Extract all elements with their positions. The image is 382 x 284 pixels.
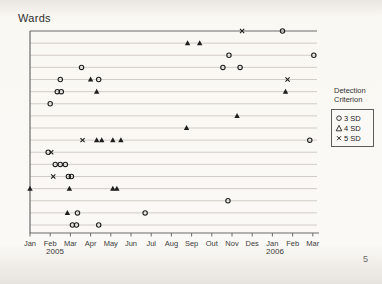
legend-title-line1: Detection: [334, 86, 366, 95]
triangle-marker-icon: [335, 124, 344, 132]
legend-entry-3sd: 3 SD: [335, 113, 373, 123]
slide: Wards JanFebMarAprMayJunJulAugSepOutNovD…: [0, 0, 382, 284]
legend-entry-5sd: 5 SD: [335, 133, 373, 143]
x-tick-label: Aug: [165, 239, 178, 248]
legend-entry-4sd: 4 SD: [335, 123, 373, 133]
scatter-plot: JanFebMarAprMayJunJulAugSepOutNovDesJanF…: [0, 0, 382, 284]
x-tick-label: Jun: [125, 239, 137, 248]
year-label-2005: 2005: [35, 247, 75, 256]
legend-title-line2: Criterion: [334, 95, 366, 104]
legend-title: Detection Criterion: [334, 86, 366, 104]
x-tick-label: Nov: [225, 239, 239, 248]
x-marker-icon: [335, 134, 344, 142]
legend-entry-label: 4 SD: [344, 124, 361, 133]
circle-marker-icon: [335, 114, 344, 122]
x-tick-label: Sep: [185, 239, 198, 248]
x-tick-label: Apr: [85, 239, 97, 248]
year-label-2006: 2006: [255, 247, 295, 256]
slide-number: 5: [363, 254, 368, 264]
legend-entry-label: 3 SD: [344, 114, 361, 123]
legend-box: 3 SD 4 SD 5 SD: [331, 109, 374, 147]
x-tick-label: Mar: [306, 239, 319, 248]
legend-entry-label: 5 SD: [344, 134, 361, 143]
x-tick-label: Jul: [146, 239, 156, 248]
x-tick-label: May: [104, 239, 118, 248]
x-tick-label: Out: [206, 239, 219, 248]
